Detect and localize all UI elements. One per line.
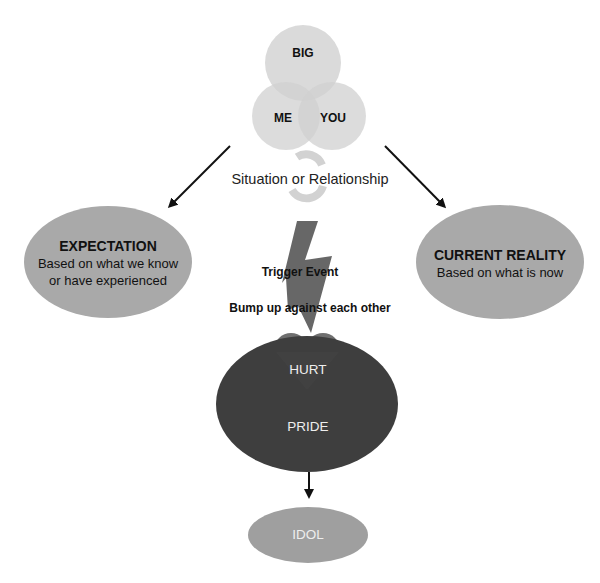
venn-diagram xyxy=(252,25,366,150)
trigger-event-label: Trigger Event xyxy=(240,265,360,279)
venn-label-you: YOU xyxy=(313,111,353,125)
bump-label: Bump up against each other xyxy=(210,301,410,315)
diagram-canvas xyxy=(0,0,600,583)
situation-label: Situation or Relationship xyxy=(200,171,420,187)
venn-label-big: BIG xyxy=(288,46,318,60)
current-reality-line1: Based on what is now xyxy=(410,264,590,281)
hurt-label: HURT xyxy=(278,362,338,377)
venn-label-me: ME xyxy=(268,111,298,125)
current-reality-title: CURRENT REALITY xyxy=(420,247,580,263)
expectation-title: EXPECTATION xyxy=(28,238,188,254)
expectation-line1: Based on what we know xyxy=(18,255,198,272)
pride-label: PRIDE xyxy=(278,419,338,434)
expectation-line2: or have experienced xyxy=(18,272,198,289)
idol-label: IDOL xyxy=(278,527,338,542)
